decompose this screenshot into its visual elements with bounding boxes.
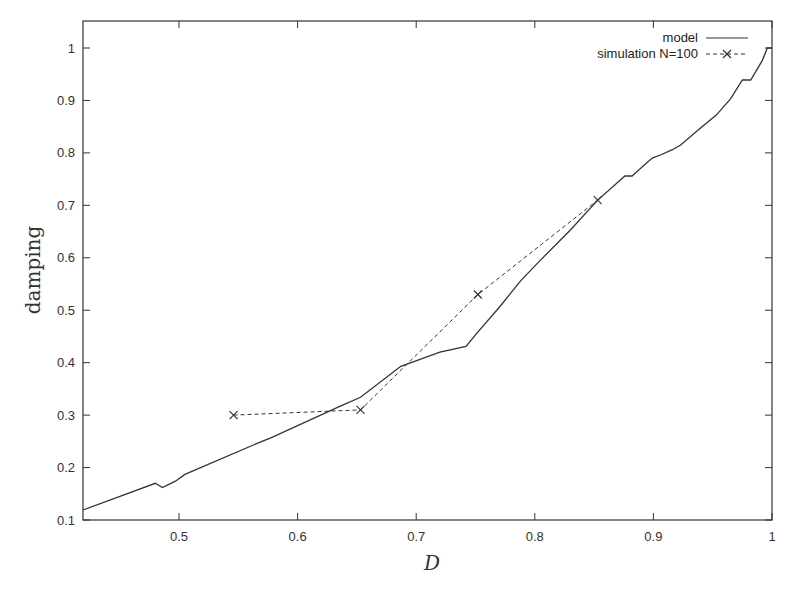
series-line-simulation <box>234 200 598 415</box>
series-line-model <box>83 48 772 510</box>
y-tick-label: 0.6 <box>57 250 75 265</box>
y-tick-label: 0.3 <box>57 408 75 423</box>
chart: 0.50.60.70.80.91 0.10.20.30.40.50.60.70.… <box>0 0 794 590</box>
x-tick-label: 0.8 <box>526 529 544 544</box>
y-tick-label: 0.4 <box>57 355 75 370</box>
y-tick-label: 0.5 <box>57 303 75 318</box>
plot-frame <box>83 21 772 520</box>
y-tick-label: 0.8 <box>57 145 75 160</box>
legend-label-simulation: simulation N=100 <box>597 46 698 61</box>
y-axis-title: damping <box>21 226 45 315</box>
legend-label-model: model <box>663 30 699 45</box>
x-axis-title: D <box>423 551 440 575</box>
y-tick-label: 0.2 <box>57 460 75 475</box>
y-tick-label: 1 <box>68 41 75 56</box>
x-marker-icon <box>594 196 602 204</box>
y-tick-label: 0.9 <box>57 93 75 108</box>
x-axis: 0.50.60.70.80.91 <box>170 21 776 544</box>
x-tick-label: 0.9 <box>644 529 662 544</box>
x-tick-label: 0.6 <box>289 529 307 544</box>
series-layer <box>83 48 772 510</box>
x-tick-label: 0.5 <box>170 529 188 544</box>
x-tick-label: 1 <box>768 529 775 544</box>
x-tick-label: 0.7 <box>407 529 425 544</box>
y-axis: 0.10.20.30.40.50.60.70.80.91 <box>57 41 772 528</box>
legend: model simulation N=100 <box>597 30 748 61</box>
y-tick-label: 0.1 <box>57 513 75 528</box>
plot-border <box>83 21 772 520</box>
y-tick-label: 0.7 <box>57 198 75 213</box>
x-marker-icon <box>356 406 364 414</box>
x-marker-icon <box>474 290 482 298</box>
